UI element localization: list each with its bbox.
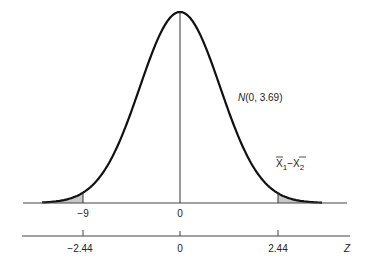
bell-curve	[42, 12, 322, 203]
distribution-params: (0, 3.69)	[245, 92, 282, 103]
lower-tick-label-neg2.44: −2.44	[67, 243, 93, 254]
left-tail-shading	[42, 12, 322, 203]
lower-tick-label-0: 0	[177, 243, 183, 254]
upper-tick-label-neg9: −9	[77, 208, 89, 219]
normal-distribution-chart: −9 0 −2.44 0 2.44 Z N(0, 3.69) X1−X2	[0, 0, 367, 274]
z-axis-label: Z	[343, 243, 351, 254]
right-tail-shading	[42, 12, 322, 203]
x2-subscript: 2	[300, 163, 305, 172]
upper-tick-label-0: 0	[177, 208, 183, 219]
distribution-label: N(0, 3.69)	[238, 92, 282, 103]
lower-tick-label-2.44: 2.44	[268, 243, 288, 254]
difference-of-means-label: X1−X2	[276, 158, 305, 172]
